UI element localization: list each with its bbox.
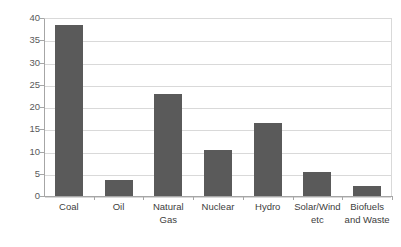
y-axis-tick-label: 10 (6, 147, 40, 157)
bar[interactable] (105, 180, 133, 196)
x-axis-tick-mark (193, 196, 194, 200)
y-axis-tick-label: 20 (6, 102, 40, 112)
bar-slot (293, 18, 343, 196)
bar-slot (94, 18, 144, 196)
x-axis-tick-mark (293, 196, 294, 200)
y-axis-ticks: 0510152025303540 (0, 0, 40, 247)
bar[interactable] (55, 25, 83, 196)
x-axis-line (44, 196, 392, 197)
x-axis-tick-mark (243, 196, 244, 200)
y-axis-tick-label: 0 (6, 191, 40, 201)
x-axis-tick-label: Biofuels and Waste (336, 200, 398, 226)
x-axis-tick-mark (94, 196, 95, 200)
x-axis-tick-mark (342, 196, 343, 200)
y-axis-tick-label: 35 (6, 36, 40, 46)
bar[interactable] (353, 186, 381, 196)
bar-slot (193, 18, 243, 196)
bar-slot (143, 18, 193, 196)
gridline (45, 197, 391, 198)
bar-slot (342, 18, 392, 196)
y-axis-tick-label: 15 (6, 125, 40, 135)
y-axis-tick-label: 40 (6, 13, 40, 23)
y-axis-tick-mark (40, 196, 44, 197)
y-axis-tick-label: 5 (6, 169, 40, 179)
x-axis-labels: CoalOilNatural GasNuclearHydroSolar/Wind… (44, 200, 392, 246)
bar[interactable] (254, 123, 282, 196)
bar[interactable] (204, 150, 232, 196)
y-axis-tick-label: 25 (6, 80, 40, 90)
bar[interactable] (303, 172, 331, 196)
bar-slot (44, 18, 94, 196)
x-axis-tick-mark (392, 196, 393, 200)
bar-chart: 0510152025303540 CoalOilNatural GasNucle… (0, 0, 401, 247)
bar[interactable] (154, 94, 182, 196)
bar-slot (243, 18, 293, 196)
y-axis-tick-label: 30 (6, 58, 40, 68)
x-axis-tick-mark (143, 196, 144, 200)
bars-group (44, 18, 392, 196)
